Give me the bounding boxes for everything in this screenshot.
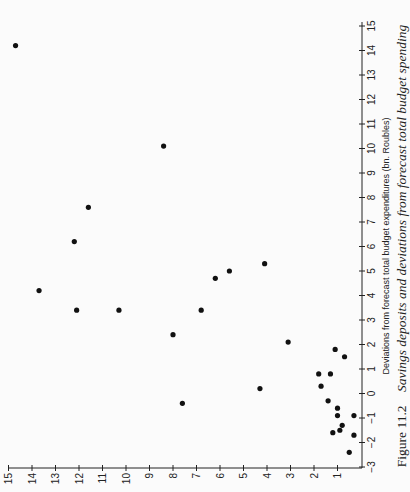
- data-point: [340, 423, 345, 428]
- y-tick-label: 6: [215, 473, 226, 479]
- y-tick-label: 15: [3, 473, 14, 485]
- figure-caption: Figure 11.2 Savings deposits and deviati…: [394, 25, 409, 468]
- y-tick-label: 10: [121, 473, 132, 485]
- data-point: [347, 450, 352, 455]
- data-point: [286, 339, 291, 344]
- data-point: [351, 413, 356, 418]
- data-point: [116, 308, 121, 313]
- x-tick-label: 10: [366, 143, 377, 155]
- data-point: [335, 413, 340, 418]
- x-axis-title: Deviations from forecast total budget ex…: [381, 117, 391, 374]
- data-point: [199, 308, 204, 313]
- y-tick-label: 12: [74, 473, 85, 485]
- y-tick-label: 7: [191, 473, 202, 479]
- data-point: [72, 239, 77, 244]
- data-point: [262, 261, 267, 266]
- caption-text: Savings deposits and deviations from for…: [394, 25, 409, 392]
- x-tick-label: 0: [366, 390, 377, 396]
- data-point: [326, 398, 331, 403]
- y-tick-label: 14: [27, 473, 38, 485]
- y-tick-label: 8: [168, 473, 179, 479]
- data-point: [170, 332, 175, 337]
- data-points: [13, 43, 357, 455]
- data-point: [333, 347, 338, 352]
- data-point: [13, 43, 18, 48]
- data-point: [328, 371, 333, 376]
- x-tick-label: 2: [366, 341, 377, 347]
- x-tick-label: 3: [366, 317, 377, 323]
- y-tick-label: 11: [97, 473, 108, 484]
- x-tick-label: −3: [366, 461, 377, 473]
- data-point: [36, 288, 41, 293]
- scatter-chart: 123456789101112131415 −3−2−1012345678910…: [0, 0, 410, 492]
- y-tick-label: 2: [309, 473, 320, 479]
- data-point: [86, 205, 91, 210]
- data-point: [342, 354, 347, 359]
- x-tick-label: 4: [366, 292, 377, 298]
- data-point: [337, 428, 342, 433]
- y-tick-label: 13: [50, 473, 61, 485]
- data-point: [330, 430, 335, 435]
- x-tick-label: 11: [366, 118, 377, 129]
- x-tick-label: 14: [366, 45, 377, 57]
- data-point: [161, 143, 166, 148]
- data-point: [351, 433, 356, 438]
- x-tick-label: 1: [366, 366, 377, 372]
- y-tick-label: 1: [332, 473, 343, 479]
- data-point: [318, 384, 323, 389]
- data-point: [227, 268, 232, 273]
- x-tick-label: 5: [366, 268, 377, 274]
- data-point: [213, 276, 218, 281]
- data-point: [316, 371, 321, 376]
- data-point: [335, 406, 340, 411]
- x-tick-label: 15: [366, 20, 377, 32]
- y-tick-label: 9: [144, 473, 155, 479]
- x-tick-label: 9: [366, 170, 377, 176]
- y-tick-label: 3: [285, 473, 296, 479]
- data-point: [180, 401, 185, 406]
- x-tick-label: 8: [366, 194, 377, 200]
- y-tick-label: 4: [262, 473, 273, 479]
- caption-label: Figure 11.2: [394, 405, 409, 467]
- x-tick-label: −2: [366, 436, 377, 448]
- x-tick-label: 12: [366, 94, 377, 106]
- x-tick-label: 6: [366, 243, 377, 249]
- data-point: [74, 308, 79, 313]
- y-tick-label: 5: [238, 473, 249, 479]
- data-point: [257, 386, 262, 391]
- x-tick-label: 7: [366, 219, 377, 225]
- x-tick-label: 13: [366, 69, 377, 81]
- x-tick-label: −1: [366, 412, 377, 424]
